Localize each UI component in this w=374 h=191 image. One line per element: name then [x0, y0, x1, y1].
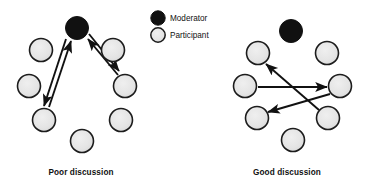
- participant-node-L-p-upright: [102, 39, 125, 62]
- legend-label-participant: Participant: [170, 31, 209, 40]
- participant-node-R-p-upright: [316, 42, 339, 65]
- legend-marker-participant: [151, 28, 165, 42]
- diagram-canvas: Poor discussion Good discussion Moderato…: [0, 0, 374, 191]
- participant-node-R-p-left: [234, 75, 257, 98]
- panel-caption-poor-discussion: Poor discussion: [48, 168, 113, 177]
- participant-node-R-p-right: [329, 75, 352, 98]
- participant-node-L-p-lowleft: [33, 109, 56, 132]
- participant-node-L-p-left: [18, 75, 41, 98]
- participant-node-L-p-upleft: [30, 39, 53, 62]
- legend-label-moderator: Moderator: [170, 14, 208, 23]
- moderator-node-L-moderator: [66, 17, 89, 40]
- participant-node-L-p-bottom: [71, 130, 94, 153]
- panel-caption-good-discussion: Good discussion: [253, 168, 321, 177]
- participant-node-L-p-right: [114, 75, 137, 98]
- participant-node-R-p-lowright: [317, 107, 340, 130]
- moderator-node-R-moderator: [280, 20, 303, 43]
- panel-poor-discussion: Poor discussion: [18, 17, 137, 178]
- participant-node-R-p-upleft: [247, 42, 270, 65]
- participant-node-L-p-lowright: [110, 109, 133, 132]
- participant-node-R-p-bottom: [282, 129, 305, 152]
- figure-root: Poor discussion Good discussion Moderato…: [0, 0, 374, 191]
- legend-marker-moderator: [151, 11, 165, 25]
- legend: ModeratorParticipant: [151, 11, 210, 42]
- panel-good-discussion: Good discussion: [234, 20, 352, 178]
- participant-node-R-p-lowleft: [246, 107, 269, 130]
